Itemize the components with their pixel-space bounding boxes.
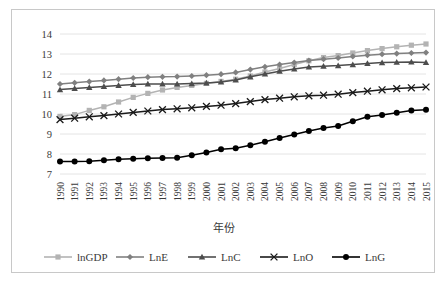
data-point-diamond bbox=[408, 50, 414, 56]
x-axis-tick-label: 1999 bbox=[187, 182, 197, 201]
y-axis-tick-labels: 7891011121314 bbox=[42, 29, 53, 180]
x-axis-tick-label: 2010 bbox=[348, 182, 358, 201]
legend-label: LnG bbox=[365, 251, 385, 263]
legend-label: lnGDP bbox=[77, 251, 108, 263]
series-line bbox=[60, 62, 426, 90]
data-point-circle bbox=[394, 110, 400, 116]
data-point-circle bbox=[247, 142, 253, 148]
data-point-circle bbox=[379, 112, 385, 118]
x-axis-tick-label: 2001 bbox=[217, 182, 227, 201]
data-point-diamond bbox=[101, 77, 107, 83]
data-point-diamond bbox=[203, 72, 209, 78]
data-point-diamond bbox=[423, 50, 429, 56]
x-axis-tick-label: 2004 bbox=[260, 182, 270, 201]
data-point-circle bbox=[291, 131, 297, 137]
x-axis-tick-label: 1995 bbox=[129, 182, 139, 201]
x-axis-tick-label: 2000 bbox=[202, 182, 212, 201]
x-axis-tick-label: 1998 bbox=[173, 182, 183, 201]
data-point-circle bbox=[364, 114, 370, 120]
data-point-circle bbox=[189, 152, 195, 158]
chart-figure: 7891011121314 19901991199219931994199519… bbox=[0, 0, 446, 296]
data-point-circle bbox=[72, 158, 78, 164]
data-point-square bbox=[409, 43, 414, 48]
data-point-circle bbox=[218, 146, 224, 152]
data-point-circle bbox=[57, 158, 63, 164]
y-axis-tick-label: 10 bbox=[42, 109, 53, 120]
data-point-diamond bbox=[394, 51, 400, 57]
legend-item-LnE[interactable]: LnE bbox=[116, 251, 168, 263]
x-axis-tick-label: 2005 bbox=[275, 182, 285, 201]
y-axis-tick-label: 7 bbox=[47, 169, 52, 180]
x-axis-tick-label: 1990 bbox=[56, 182, 66, 201]
legend-item-LnC[interactable]: LnC bbox=[188, 251, 241, 263]
x-axis-tick-label: 2007 bbox=[304, 182, 314, 201]
data-point-square bbox=[423, 41, 428, 46]
x-axis-tick-label: 2006 bbox=[290, 182, 300, 201]
data-point-circle bbox=[130, 156, 136, 162]
y-axis-tick-label: 8 bbox=[47, 149, 52, 160]
x-axis-tick-label: 1991 bbox=[70, 182, 80, 201]
data-point-circle bbox=[423, 107, 429, 113]
x-axis-tick-label: 2002 bbox=[231, 182, 241, 201]
data-point-diamond bbox=[57, 81, 63, 87]
y-axis-tick-label: 13 bbox=[42, 49, 53, 60]
x-axis-tick-label: 2013 bbox=[392, 182, 402, 201]
x-axis-title-group: 年份 bbox=[213, 221, 235, 234]
y-axis-tick-label: 14 bbox=[42, 29, 53, 40]
legend-item-LnG[interactable]: LnG bbox=[332, 251, 385, 263]
data-point-diamond bbox=[115, 76, 121, 82]
data-point-square bbox=[87, 108, 92, 113]
series-LnE bbox=[57, 50, 429, 88]
data-point-circle bbox=[203, 149, 209, 155]
data-point-square bbox=[131, 95, 136, 100]
series-LnG bbox=[57, 107, 429, 165]
data-point-square bbox=[116, 99, 121, 104]
x-axis-tick-label: 1996 bbox=[143, 182, 153, 201]
data-point-circle bbox=[321, 125, 327, 131]
legend-label: LnC bbox=[221, 251, 241, 263]
data-point-square bbox=[394, 44, 399, 49]
data-point-circle bbox=[306, 128, 312, 134]
legend-item-lnGDP[interactable]: lnGDP bbox=[44, 251, 108, 263]
series-LnC bbox=[57, 59, 429, 92]
data-point-diamond bbox=[379, 51, 385, 57]
data-point-diamond bbox=[130, 75, 136, 81]
y-axis-tick-label: 12 bbox=[42, 69, 53, 80]
data-point-diamond bbox=[218, 71, 224, 77]
data-point-circle bbox=[101, 157, 107, 163]
data-point-circle bbox=[335, 123, 341, 129]
x-axis-tick-label: 1993 bbox=[99, 182, 109, 201]
legend-label: LnO bbox=[293, 251, 313, 263]
data-point-circle bbox=[116, 156, 122, 162]
x-axis-tick-label: 2009 bbox=[334, 182, 344, 201]
series-group bbox=[57, 41, 430, 164]
data-point-diamond bbox=[145, 74, 151, 80]
data-point-diamond bbox=[72, 80, 78, 86]
x-axis-tick-label: 1994 bbox=[114, 182, 124, 201]
data-point-circle bbox=[277, 135, 283, 141]
x-axis-tick-label: 2014 bbox=[407, 182, 417, 201]
x-axis-tick-label: 1992 bbox=[85, 182, 95, 201]
y-axis-tick-label: 11 bbox=[42, 89, 52, 100]
x-axis-tick-labels: 1990199119921993199419951996199719981999… bbox=[56, 182, 432, 201]
data-point-diamond bbox=[127, 254, 133, 260]
data-point-circle bbox=[233, 145, 239, 151]
data-point-square bbox=[379, 46, 384, 51]
data-point-square bbox=[55, 254, 60, 259]
data-point-circle bbox=[343, 254, 349, 260]
data-point-diamond bbox=[262, 64, 268, 70]
x-axis-tick-label: 2015 bbox=[422, 182, 432, 201]
legend-label: LnE bbox=[149, 251, 168, 263]
x-axis-title: 年份 bbox=[213, 221, 235, 234]
data-point-diamond bbox=[247, 67, 253, 73]
y-axis-tick-label: 9 bbox=[47, 129, 52, 140]
data-point-square bbox=[160, 87, 165, 92]
data-point-square bbox=[145, 91, 150, 96]
data-point-diamond bbox=[86, 79, 92, 85]
data-point-circle bbox=[159, 155, 165, 161]
data-point-circle bbox=[145, 155, 151, 161]
legend-item-LnO[interactable]: LnO bbox=[260, 251, 313, 263]
data-point-circle bbox=[262, 139, 268, 145]
x-axis-tick-label: 2003 bbox=[246, 182, 256, 201]
series-line bbox=[60, 53, 426, 84]
